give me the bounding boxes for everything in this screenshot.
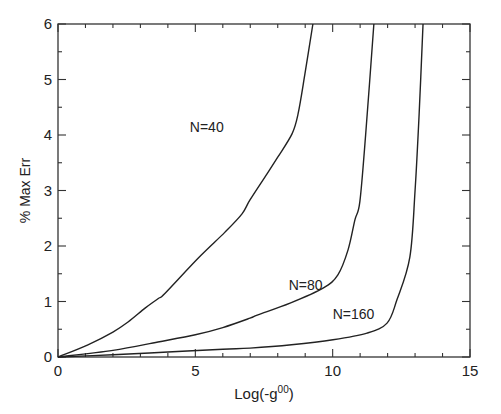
y-tick-label: 4 (44, 126, 52, 143)
chart: 0510150123456 N=40N=80N=160 Log(-g00) % … (0, 0, 501, 414)
x-tick-label: 5 (191, 362, 199, 379)
x-axis-label-main: Log(-g (234, 385, 277, 402)
tick-marks (58, 24, 470, 357)
y-tick-label: 5 (44, 71, 52, 88)
y-tick-label: 0 (44, 348, 52, 365)
y-tick-label: 1 (44, 293, 52, 310)
curve-label: N=80 (289, 277, 323, 293)
series-n-40 (58, 24, 313, 357)
chart-svg: 0510150123456 N=40N=80N=160 Log(-g00) % … (0, 0, 501, 414)
x-axis-label: Log(-g00) (234, 384, 293, 402)
x-tick-label: 10 (324, 362, 341, 379)
tick-labels: 0510150123456 (44, 15, 479, 379)
y-tick-label: 3 (44, 182, 52, 199)
plot-frame (58, 24, 470, 357)
curve-label: N=160 (333, 306, 375, 322)
y-tick-label: 2 (44, 237, 52, 254)
curve-label: N=40 (190, 119, 224, 135)
x-tick-label: 0 (54, 362, 62, 379)
x-axis-label-suffix: ) (289, 385, 294, 402)
y-axis-label: % Max Err (17, 157, 33, 223)
y-tick-label: 6 (44, 15, 52, 32)
x-tick-label: 15 (462, 362, 479, 379)
x-axis-label-superscript: 00 (278, 384, 290, 395)
series-n-80 (58, 24, 374, 357)
